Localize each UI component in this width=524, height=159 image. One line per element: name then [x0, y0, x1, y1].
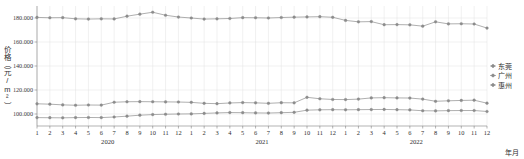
data-point: [190, 113, 193, 116]
data-point: [306, 96, 309, 99]
data-point: [421, 109, 424, 112]
data-point: [306, 109, 309, 112]
x-tick-label: 8: [125, 129, 128, 136]
data-point: [447, 99, 450, 102]
x-tick-label: 6: [100, 129, 103, 136]
legend-label: 东莞: [498, 62, 512, 71]
data-point: [203, 112, 206, 115]
data-point: [151, 100, 154, 103]
data-point: [113, 18, 116, 21]
data-point: [447, 23, 450, 26]
y-axis-tick-labels: 100.000120.000140.000160.000180.000: [13, 14, 37, 117]
data-point: [74, 104, 77, 107]
data-point: [229, 17, 232, 20]
data-point: [434, 110, 437, 113]
x-tick-label: 3: [215, 129, 218, 136]
data-point: [280, 16, 283, 19]
data-point: [177, 16, 180, 19]
y-tick-label: 120.000: [13, 86, 33, 93]
data-point: [100, 17, 103, 20]
data-point: [267, 17, 270, 20]
x-tick-label: 4: [228, 129, 232, 136]
data-point: [254, 101, 257, 104]
data-point: [460, 99, 463, 102]
data-point: [164, 101, 167, 104]
data-point: [164, 14, 167, 17]
gridlines-group: [37, 6, 487, 126]
data-point: [203, 102, 206, 105]
data-point: [396, 108, 399, 111]
x-axis-year-label: 2021: [255, 138, 268, 145]
data-point: [280, 111, 283, 114]
x-tick-label: 9: [293, 129, 296, 136]
data-point: [421, 25, 424, 28]
x-tick-label: 3: [61, 129, 64, 136]
x-tick-label: 6: [408, 129, 411, 136]
data-point: [460, 109, 463, 112]
legend-label: 惠州: [498, 81, 512, 89]
x-tick-label: 9: [138, 129, 141, 136]
data-point: [319, 97, 322, 100]
data-point: [293, 101, 296, 104]
legend-item-3[interactable]: 惠州: [490, 81, 512, 89]
data-point: [357, 98, 360, 101]
x-tick-label: 12: [175, 129, 181, 136]
data-point: [409, 109, 412, 112]
data-point: [241, 101, 244, 104]
series-2: [36, 96, 489, 107]
data-point: [331, 98, 334, 101]
data-point: [87, 18, 90, 21]
x-tick-label: 4: [74, 129, 78, 136]
x-tick-label: 7: [421, 129, 425, 136]
x-tick-label: 2: [48, 129, 51, 136]
legend-item-1[interactable]: 东莞: [490, 62, 512, 71]
data-point: [229, 102, 232, 105]
data-point: [396, 97, 399, 100]
x-tick-label: 3: [370, 129, 373, 136]
data-point: [409, 23, 412, 26]
data-point: [229, 111, 232, 114]
data-point: [177, 101, 180, 104]
data-point: [267, 102, 270, 105]
data-point: [151, 11, 154, 14]
data-point: [190, 101, 193, 104]
data-point: [254, 16, 257, 19]
x-tick-label: 10: [458, 129, 464, 136]
data-point: [293, 16, 296, 19]
x-tick-label: 1: [190, 129, 193, 136]
data-point: [473, 99, 476, 102]
series-3: [36, 108, 489, 119]
x-tick-label: 8: [434, 129, 437, 136]
data-point: [139, 13, 142, 16]
data-point: [241, 16, 244, 19]
data-point: [74, 116, 77, 119]
data-point: [216, 17, 219, 20]
data-point: [36, 16, 39, 19]
x-tick-label: 8: [280, 129, 283, 136]
data-point: [61, 16, 64, 19]
data-point: [331, 16, 334, 19]
data-point: [74, 17, 77, 20]
data-point: [216, 112, 219, 115]
legend-item-2[interactable]: 广州: [490, 71, 512, 80]
x-tick-label: 4: [383, 129, 387, 136]
data-point: [319, 108, 322, 111]
data-point: [36, 116, 39, 119]
data-point: [486, 110, 489, 113]
data-point: [113, 101, 116, 104]
data-point: [421, 98, 424, 101]
y-tick-label: 140.000: [13, 62, 33, 69]
data-point: [434, 20, 437, 23]
x-tick-label: 5: [395, 129, 398, 136]
data-point: [87, 104, 90, 107]
x-tick-label: 9: [447, 129, 450, 136]
legend-marker-dot: [492, 65, 495, 68]
x-axis-year-labels: 202020212022: [101, 138, 423, 145]
chart-canvas: 100.000120.000140.000160.000180.000 1234…: [0, 0, 524, 159]
x-tick-label: 5: [241, 129, 244, 136]
legend-marker-dot: [492, 74, 495, 77]
data-series-group: [36, 11, 489, 119]
data-point: [357, 108, 360, 111]
x-tick-label: 12: [484, 129, 490, 136]
legend-label: 广州: [498, 71, 512, 80]
